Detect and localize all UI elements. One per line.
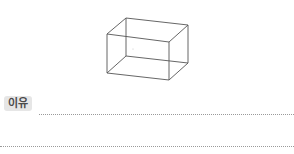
answer-line-2[interactable] bbox=[0, 146, 294, 147]
center-dot bbox=[133, 49, 134, 50]
answer-line-1[interactable] bbox=[39, 114, 294, 115]
edge bbox=[169, 25, 188, 42]
edge bbox=[107, 18, 126, 34]
cuboid-wireframe-icon bbox=[0, 0, 294, 90]
cuboid-figure bbox=[0, 0, 294, 90]
reason-label: 이유 bbox=[4, 96, 32, 111]
edge bbox=[169, 63, 188, 80]
edge bbox=[107, 56, 126, 73]
